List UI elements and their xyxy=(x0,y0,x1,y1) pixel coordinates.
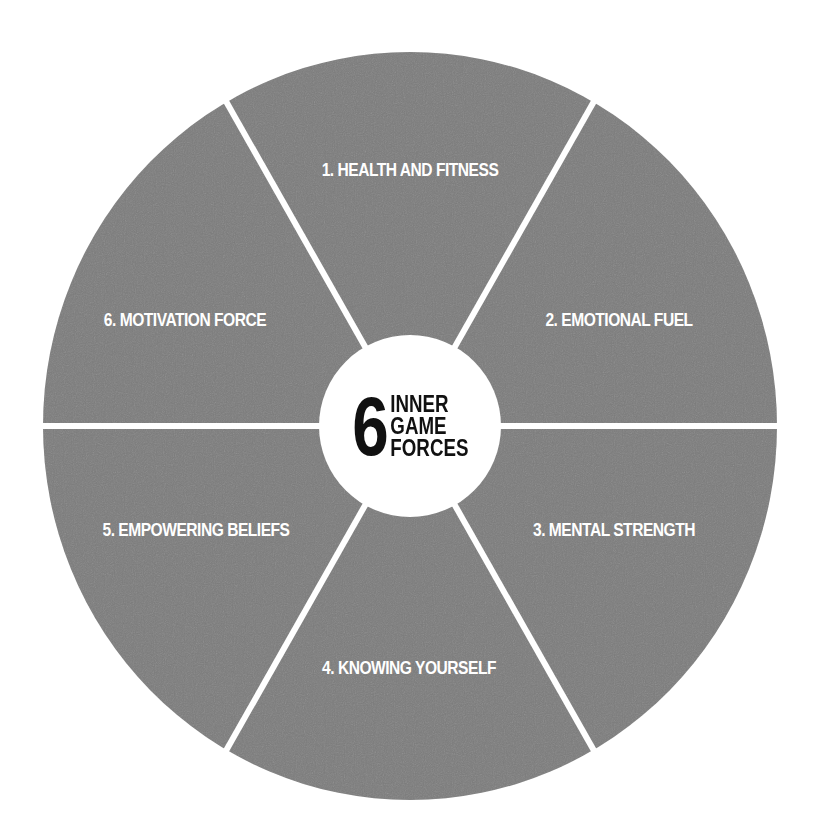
segment-label-emotional-fuel: 2. EMOTIONAL FUEL xyxy=(545,309,692,331)
segment-label-health-and-fitness: 1. HEALTH AND FITNESS xyxy=(322,159,499,181)
hub-label-group: 6 INNER GAME FORCES xyxy=(352,390,468,462)
hub-number: 6 xyxy=(352,390,387,462)
segment-label-empowering-beliefs: 5. EMPOWERING BELIEFS xyxy=(102,519,289,541)
segment-label-motivation-force: 6. MOTIVATION FORCE xyxy=(104,309,266,331)
hub-word-forces: FORCES xyxy=(390,437,468,459)
hub-words: INNER GAME FORCES xyxy=(390,393,468,459)
segment-label-mental-strength: 3. MENTAL STRENGTH xyxy=(533,519,695,541)
hub-label: 6 INNER GAME FORCES xyxy=(320,336,500,516)
segment-label-knowing-yourself: 4. KNOWING YOURSELF xyxy=(322,657,496,679)
